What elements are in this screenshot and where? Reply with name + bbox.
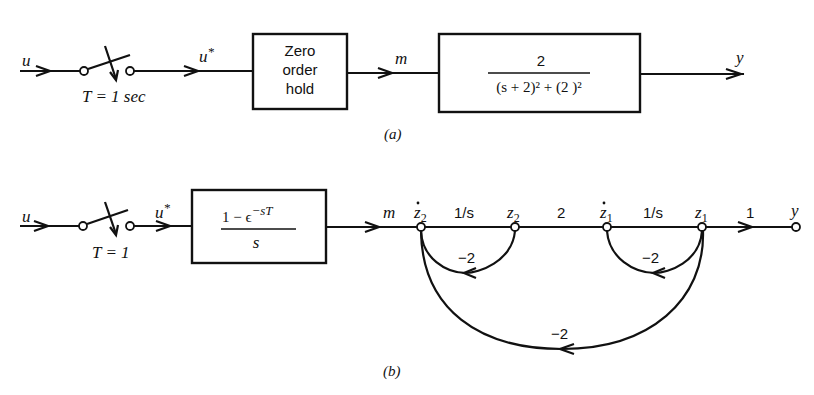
- sampler-switch-b: [79, 202, 134, 235]
- gain-z2-z1dot: 2: [557, 204, 565, 221]
- zoh-denominator-b: s: [253, 233, 260, 252]
- diagram-a: u T = 1 sec u* Zero order hold m 2 (s + …: [20, 34, 744, 143]
- derivative-dot-z2: [417, 202, 420, 205]
- zoh-line-2: order: [282, 61, 317, 78]
- sampled-u-star-label-b: u*: [155, 200, 171, 222]
- label-z1: z1: [694, 203, 708, 225]
- zoh-transfer-block-b: [192, 190, 326, 263]
- sampled-u-star-label-a: u*: [199, 44, 215, 66]
- gain-feedback-z1: −2: [642, 249, 659, 266]
- input-u-label-a: u: [22, 51, 31, 70]
- m-label-b: m: [383, 203, 395, 222]
- output-y-label-a: y: [734, 48, 744, 67]
- gain-z2dot-z2: 1/s: [454, 204, 474, 221]
- caption-b: (b): [383, 363, 401, 380]
- label-z2: z2: [506, 203, 520, 225]
- zoh-line-1: Zero: [285, 42, 316, 59]
- gain-z1-y: 1: [746, 204, 754, 221]
- zoh-line-3: hold: [286, 80, 314, 97]
- label-y: y: [789, 201, 799, 220]
- zoh-numerator-b: 1 − ϵ−sT: [222, 203, 273, 225]
- input-u-label-b: u: [22, 207, 31, 226]
- diagram-b: u T = 1 u* 1 − ϵ−sT s m: [20, 190, 800, 380]
- gain-feedback-z2: −2: [458, 249, 475, 266]
- sampled-data-system-diagram: u T = 1 sec u* Zero order hold m 2 (s + …: [0, 0, 814, 395]
- plant-numerator: 2: [537, 52, 545, 69]
- derivative-dot-z1: [603, 202, 606, 205]
- caption-a: (a): [384, 126, 402, 143]
- m-label-a: m: [395, 49, 407, 68]
- gain-z1dot-z1: 1/s: [643, 204, 663, 221]
- sampler-switch-a: [80, 46, 134, 80]
- gain-feedback-outer: −2: [551, 325, 568, 342]
- sampler-period-label-b: T = 1: [92, 243, 130, 262]
- label-z1dot: z1: [599, 203, 613, 225]
- sampler-period-label-a: T = 1 sec: [82, 87, 146, 106]
- node-y: [792, 223, 800, 231]
- label-z2dot: z2: [413, 203, 427, 225]
- plant-denominator: (s + 2)² + (2 )²: [496, 79, 582, 96]
